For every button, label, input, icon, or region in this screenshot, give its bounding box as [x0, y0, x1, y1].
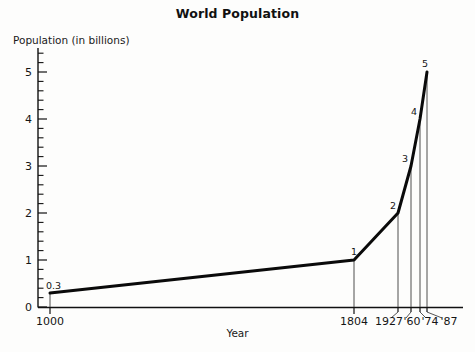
world-population-chart: World Population Population (in billions…	[0, 0, 475, 352]
y-tick-label-4: 4	[25, 113, 32, 126]
y-tick-label-1: 1	[25, 254, 32, 267]
plot-area: 0 1 2 3 4 5 0.3 1 2 3 4 5 1000	[0, 0, 475, 352]
point-label-0.3: 0.3	[46, 280, 61, 291]
y-tick-label-2: 2	[25, 207, 32, 220]
point-label-3: 3	[402, 153, 408, 164]
y-tick-label-3: 3	[25, 160, 32, 173]
point-label-1: 1	[351, 246, 357, 257]
point-label-2: 2	[390, 200, 396, 211]
point-label-5: 5	[422, 58, 428, 69]
y-tick-label-5: 5	[25, 66, 32, 79]
population-line	[50, 72, 427, 293]
point-label-4: 4	[411, 106, 417, 117]
x-axis-title: Year	[0, 327, 475, 339]
y-tick-label-0: 0	[25, 301, 32, 314]
